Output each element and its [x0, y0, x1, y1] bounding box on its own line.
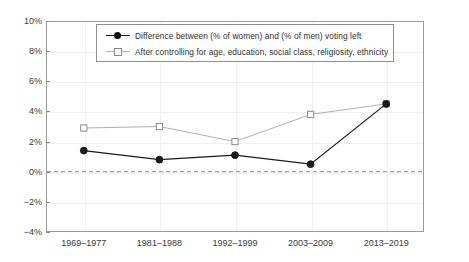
y-axis-tick-mark: [46, 21, 50, 22]
legend-key-open-square-icon: [106, 46, 130, 58]
y-axis-tick-mark: [46, 51, 50, 52]
gridline-horizontal: [47, 82, 423, 83]
x-axis-tick-label: 1992–1999: [212, 238, 257, 248]
y-axis-tick-label: −4%: [2, 227, 42, 237]
y-axis-tick-label: 6%: [2, 76, 42, 86]
x-axis-tick-label: 2013–2019: [364, 238, 409, 248]
y-axis-labels: 10%8%6%4%2%0%−2%−4%: [0, 21, 42, 232]
y-axis-tick-mark: [46, 81, 50, 82]
legend-label-controlled: After controlling for age, education, so…: [135, 47, 388, 57]
legend-label-difference: Difference between (% of women) and (% o…: [135, 31, 361, 41]
gridline-horizontal: [47, 143, 423, 144]
chart-container: 10%8%6%4%2%0%−2%−4% 1969–19771981–198819…: [0, 0, 469, 262]
gridline-horizontal: [47, 173, 423, 174]
x-axis-tick-label: 1969–1977: [61, 238, 106, 248]
y-axis-tick-mark: [46, 111, 50, 112]
y-axis-tick-label: 4%: [2, 106, 42, 116]
x-axis-tick-label: 2003–2009: [288, 238, 333, 248]
y-axis-tick-mark: [46, 172, 50, 173]
gridline-horizontal: [47, 112, 423, 113]
gridline-horizontal: [47, 203, 423, 204]
y-axis-tick-mark: [46, 202, 50, 203]
y-axis-tick-label: 0%: [2, 167, 42, 177]
chart-legend: Difference between (% of women) and (% o…: [96, 24, 394, 62]
y-axis-tick-mark: [46, 142, 50, 143]
y-axis-tick-label: 8%: [2, 46, 42, 56]
legend-item-difference: Difference between (% of women) and (% o…: [106, 29, 361, 43]
x-axis-tick-label: 1981–1988: [137, 238, 182, 248]
legend-key-filled-circle-icon: [106, 30, 130, 42]
gridline-vertical: [85, 22, 86, 231]
y-axis-tick-label: 10%: [2, 16, 42, 26]
y-axis-tick-mark: [46, 232, 50, 233]
legend-item-controlled: After controlling for age, education, so…: [106, 45, 388, 59]
y-axis-tick-label: 2%: [2, 137, 42, 147]
y-axis-tick-label: −2%: [2, 197, 42, 207]
